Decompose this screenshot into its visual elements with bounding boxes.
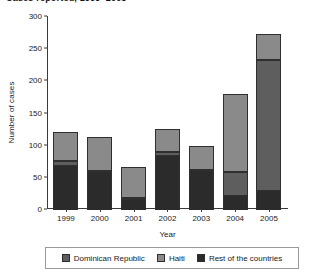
bar-group[interactable] [121, 16, 146, 209]
bar-segment[interactable] [223, 94, 248, 172]
x-tick-mark [167, 209, 168, 212]
x-tick-label: 2001 [125, 214, 143, 223]
chart-legend: Dominican RepublicHaitiRest of the count… [45, 247, 299, 269]
bar-group[interactable] [87, 16, 112, 209]
legend-item[interactable]: Dominican Republic [62, 254, 145, 263]
bar-segment[interactable] [155, 155, 180, 210]
bar-group[interactable] [53, 16, 78, 209]
bar-stack[interactable] [223, 94, 248, 209]
y-axis-title: Number of cases [6, 16, 18, 209]
bar-stack[interactable] [155, 129, 180, 209]
bar-stack[interactable] [87, 137, 112, 209]
legend-swatch-icon [62, 254, 70, 262]
figure-title: Cases reported, 1999–2005 [6, 0, 127, 3]
x-tick-label: 2000 [91, 214, 109, 223]
legend-label: Haiti [169, 254, 185, 263]
bar-group[interactable] [189, 16, 214, 209]
bar-segment[interactable] [223, 172, 248, 196]
bar-stack[interactable] [53, 132, 78, 209]
x-tick-mark [201, 209, 202, 212]
bar-group[interactable] [256, 16, 281, 209]
bar-group[interactable] [223, 16, 248, 209]
x-tick-mark [100, 209, 101, 212]
x-tick-mark [269, 209, 270, 212]
x-tick-label: 2002 [159, 214, 177, 223]
x-tick-label: 2003 [192, 214, 210, 223]
bar-segment[interactable] [189, 146, 214, 170]
bar-segment[interactable] [155, 129, 180, 152]
legend-item[interactable]: Haiti [157, 254, 185, 263]
legend-label: Rest of the countries [209, 254, 282, 263]
bar-segment[interactable] [256, 60, 281, 191]
bars-layer [47, 16, 288, 209]
legend-label: Dominican Republic [74, 254, 145, 263]
bar-segment[interactable] [189, 170, 214, 210]
bar-segment[interactable] [53, 132, 78, 161]
bar-group[interactable] [155, 16, 180, 209]
bar-segment[interactable] [87, 137, 112, 170]
bar-segment[interactable] [121, 167, 146, 198]
x-tick-label: 2004 [226, 214, 244, 223]
bar-stack[interactable] [121, 167, 146, 209]
bar-segment[interactable] [53, 165, 78, 210]
x-axis-title: Year [47, 230, 288, 239]
x-tick-mark [66, 209, 67, 212]
bar-segment[interactable] [87, 171, 112, 210]
x-tick-mark [235, 209, 236, 212]
legend-item[interactable]: Rest of the countries [197, 254, 282, 263]
plot-area: 050100150200250300 199920002001200220032… [47, 16, 288, 209]
legend-swatch-icon [157, 254, 165, 262]
legend-swatch-icon [197, 254, 205, 262]
bar-segment[interactable] [223, 195, 248, 210]
bar-stack[interactable] [256, 34, 281, 209]
x-tick-label: 2005 [260, 214, 278, 223]
bar-stack[interactable] [189, 146, 214, 209]
bar-segment[interactable] [256, 190, 281, 210]
x-tick-mark [134, 209, 135, 212]
y-axis-title-label: Number of cases [8, 82, 17, 144]
x-tick-label: 1999 [57, 214, 75, 223]
bar-segment[interactable] [256, 34, 281, 60]
